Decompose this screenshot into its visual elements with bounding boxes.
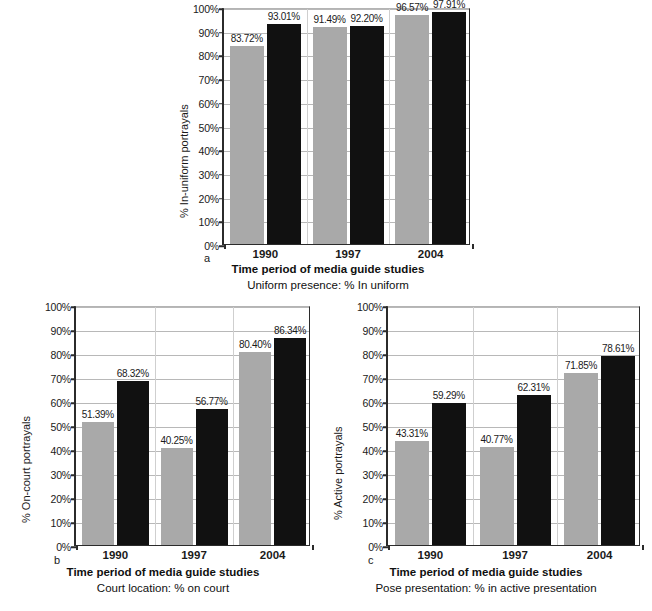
- bar-value-label: 92.20%: [350, 13, 382, 24]
- bar-1990-grey: 43.31%: [395, 441, 429, 545]
- y-tick-mark: [383, 354, 388, 356]
- y-tick-label: 0%: [56, 541, 71, 553]
- y-tick-mark: [71, 306, 76, 308]
- x-tick-mark: [642, 545, 644, 550]
- y-tick-label: 100%: [357, 301, 383, 313]
- y-axis-title-c: % Active portrayals: [332, 426, 344, 520]
- bar-1990-black: 59.29%: [432, 403, 466, 545]
- x-tick-label-2004: 2004: [587, 549, 613, 561]
- panel-subcaption-b: Court location: % on court: [2, 582, 324, 594]
- x-tick-mark: [224, 244, 226, 249]
- panel-subcaption-a: Uniform presence: % In uniform: [168, 279, 488, 291]
- y-tick-label: 20%: [363, 493, 383, 505]
- y-tick-mark: [219, 174, 224, 176]
- y-tick-label: 10%: [199, 216, 219, 228]
- y-tick-mark: [383, 426, 388, 428]
- y-tick-label: 90%: [51, 325, 71, 337]
- y-tick-mark: [383, 450, 388, 452]
- y-tick-label: 20%: [51, 493, 71, 505]
- bar-2004-black: 78.61%: [601, 356, 635, 545]
- group-separator: [307, 9, 308, 244]
- group-separator: [557, 307, 558, 545]
- y-tick-mark: [71, 426, 76, 428]
- y-tick-mark: [219, 127, 224, 129]
- bar-1997-black: 56.77%: [196, 409, 228, 545]
- chart-panel-a: % In-uniform portrayals 0%10%20%30%40%50…: [168, 0, 488, 292]
- y-tick-mark: [219, 198, 224, 200]
- y-tick-label: 60%: [51, 397, 71, 409]
- y-tick-label: 80%: [199, 50, 219, 62]
- y-tick-label: 70%: [363, 373, 383, 385]
- x-tick-label-2004: 2004: [418, 248, 444, 260]
- y-tick-mark: [383, 498, 388, 500]
- y-tick-mark: [219, 150, 224, 152]
- x-tick-label-1990: 1990: [418, 549, 444, 561]
- y-tick-mark: [219, 103, 224, 105]
- y-tick-mark: [71, 522, 76, 524]
- x-tick-label-1997: 1997: [181, 549, 207, 561]
- bar-1990-grey: 83.72%: [230, 46, 264, 244]
- y-tick-mark: [219, 8, 224, 10]
- y-tick-mark: [71, 450, 76, 452]
- y-tick-label: 90%: [363, 325, 383, 337]
- bar-value-label: 71.85%: [565, 360, 597, 371]
- y-tick-mark: [383, 474, 388, 476]
- y-tick-label: 100%: [45, 301, 71, 313]
- bar-value-label: 62.31%: [517, 382, 549, 393]
- y-axis-title-a: % In-uniform portrayals: [178, 104, 190, 218]
- plot-area-a: 0%10%20%30%40%50%60%70%80%90%100%83.72%9…: [222, 8, 470, 245]
- y-tick-mark: [383, 306, 388, 308]
- gridline: [76, 307, 309, 308]
- y-tick-mark: [219, 79, 224, 81]
- bar-1997-black: 92.20%: [350, 26, 384, 245]
- bar-value-label: 96.57%: [396, 2, 428, 13]
- bar-value-label: 91.49%: [313, 14, 345, 25]
- bar-2004-grey: 71.85%: [564, 373, 598, 545]
- bar-value-label: 43.31%: [396, 428, 428, 439]
- y-tick-label: 30%: [363, 469, 383, 481]
- y-tick-label: 70%: [51, 373, 71, 385]
- y-tick-label: 50%: [51, 421, 71, 433]
- y-tick-label: 40%: [199, 145, 219, 157]
- bar-1990-black: 68.32%: [117, 381, 149, 545]
- y-axis-title-b: % On-court portrayals: [20, 416, 32, 523]
- y-tick-label: 50%: [199, 122, 219, 134]
- x-tick-mark: [388, 545, 390, 550]
- group-separator: [155, 307, 156, 545]
- plot-area-b: 0%10%20%30%40%50%60%70%80%90%100%51.39%6…: [74, 306, 310, 546]
- bar-2004-grey: 96.57%: [395, 15, 429, 244]
- bar-1997-black: 62.31%: [517, 395, 551, 545]
- y-tick-label: 40%: [363, 445, 383, 457]
- x-tick-label-2004: 2004: [260, 549, 286, 561]
- y-tick-label: 50%: [363, 421, 383, 433]
- bar-value-label: 51.39%: [82, 409, 114, 420]
- bar-2004-grey: 80.40%: [239, 352, 271, 545]
- bar-value-label: 59.29%: [433, 390, 465, 401]
- gridline: [388, 307, 639, 308]
- x-tick-mark: [312, 545, 314, 550]
- bar-value-label: 80.40%: [239, 339, 271, 350]
- y-tick-label: 70%: [199, 74, 219, 86]
- bar-value-label: 93.01%: [268, 11, 300, 22]
- group-separator: [473, 307, 474, 545]
- x-axis-title-a: Time period of media guide studies: [168, 263, 488, 275]
- panel-letter-b: b: [54, 554, 60, 566]
- bar-1997-grey: 40.25%: [161, 448, 193, 545]
- y-tick-label: 0%: [204, 240, 219, 252]
- y-tick-label: 80%: [51, 349, 71, 361]
- y-tick-mark: [71, 378, 76, 380]
- y-tick-mark: [383, 378, 388, 380]
- x-axis-title-b: Time period of media guide studies: [2, 566, 324, 578]
- bar-value-label: 83.72%: [231, 33, 263, 44]
- group-separator: [233, 307, 234, 545]
- x-tick-mark: [76, 545, 78, 550]
- y-tick-mark: [219, 56, 224, 58]
- bar-1990-grey: 51.39%: [82, 422, 114, 545]
- y-tick-mark: [383, 522, 388, 524]
- y-tick-label: 20%: [199, 193, 219, 205]
- y-tick-mark: [71, 474, 76, 476]
- panel-letter-c: c: [368, 554, 374, 566]
- y-tick-label: 60%: [199, 98, 219, 110]
- y-tick-mark: [383, 330, 388, 332]
- x-tick-label-1997: 1997: [502, 549, 528, 561]
